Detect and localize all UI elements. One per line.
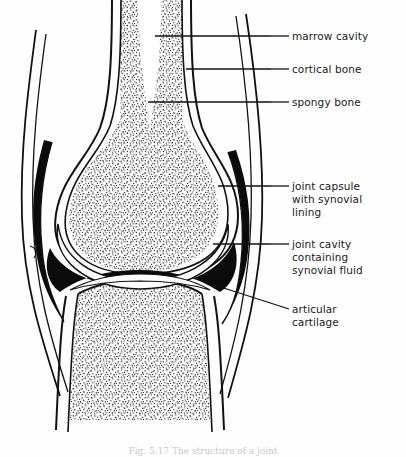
label-marrow-cavity: marrow cavity <box>292 30 368 43</box>
joint-structure-figure: marrow cavity cortical bone spongy bone … <box>0 0 406 457</box>
label-articular-cartilage: articular cartilage <box>292 303 339 329</box>
label-spongy-bone: spongy bone <box>292 96 361 109</box>
leader-dash-articular-cartilage <box>205 282 289 309</box>
upper-bone <box>55 0 240 290</box>
figure-caption: Fig. 5.17 The structure of a joint <box>0 446 406 457</box>
label-cortical-bone: cortical bone <box>292 63 362 76</box>
lower-bone <box>55 275 235 440</box>
label-joint-cavity: joint cavity containing synovial fluid <box>292 238 363 277</box>
cortical-bone-outer-lower-right <box>214 296 224 430</box>
label-joint-capsule: joint capsule with synovial lining <box>292 180 362 219</box>
